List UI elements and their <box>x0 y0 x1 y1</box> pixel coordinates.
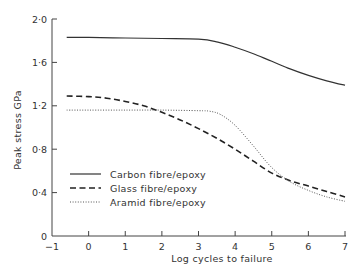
x-tick-label: 6 <box>305 241 311 252</box>
legend-label-glass: Glass fibre/epoxy <box>110 183 197 194</box>
y-tick-label: 1·6 <box>32 57 47 68</box>
y-tick-label: 2·0 <box>32 14 47 25</box>
axes: −101234567 00·40·81·21·62·0 <box>32 14 348 253</box>
series-line-carbon <box>67 37 345 85</box>
series-line-glass <box>67 96 345 197</box>
series-line-aramid <box>67 110 345 201</box>
x-axis-label: Log cycles to failure <box>171 253 272 264</box>
x-ticks: −101234567 <box>45 231 348 252</box>
y-tick-label: 0·4 <box>32 187 47 198</box>
legend: Carbon fibre/epoxyGlass fibre/epoxyArami… <box>70 169 206 208</box>
x-tick-label: 7 <box>342 241 348 252</box>
x-tick-label: −1 <box>45 241 59 252</box>
y-axis-label: Peak stress GPa <box>12 90 23 170</box>
y-tick-label: 1·2 <box>32 100 47 111</box>
x-tick-label: 5 <box>269 241 275 252</box>
y-tick-label: 0·8 <box>32 144 47 155</box>
x-tick-label: 3 <box>195 241 201 252</box>
y-ticks: 00·40·81·21·62·0 <box>32 14 57 242</box>
y-tick-label: 0 <box>41 231 47 242</box>
x-tick-label: 1 <box>122 241 128 252</box>
x-tick-label: 2 <box>159 241 165 252</box>
chart: −101234567 00·40·81·21·62·0 Carbon fibre… <box>0 0 361 276</box>
x-tick-label: 0 <box>86 241 92 252</box>
x-tick-label: 4 <box>232 241 238 252</box>
legend-label-carbon: Carbon fibre/epoxy <box>110 169 206 180</box>
legend-label-aramid: Aramid fibre/epoxy <box>110 197 206 208</box>
